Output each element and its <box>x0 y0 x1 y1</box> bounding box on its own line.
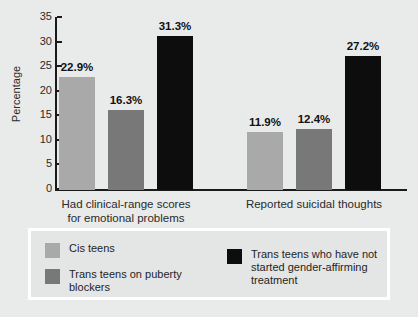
bar <box>157 36 193 190</box>
bar-value-label: 12.4% <box>286 113 342 125</box>
legend-item-cis-teens: Cis teens <box>45 242 115 258</box>
y-axis-tick-label: 15 <box>22 109 52 120</box>
chart-legend: Cis teens Trans teens on puberty blocker… <box>28 228 390 300</box>
y-axis-tick-label: 10 <box>22 134 52 145</box>
x-axis-category-label-line: Had clinical-range scores <box>16 197 236 211</box>
x-axis-category-label-line: for emotional problems <box>16 211 236 225</box>
legend-swatch-icon-no-treatment <box>227 249 242 264</box>
legend-swatch-icon-cis-teens <box>45 243 60 258</box>
bar-value-label: 16.3% <box>98 94 154 106</box>
bar-value-label: 31.3% <box>147 20 203 32</box>
legend-item-no-treatment: Trans teens who have not started gender-… <box>227 248 377 287</box>
y-axis-tick-label: 0 <box>22 183 52 194</box>
y-axis-title: Percentage <box>10 54 22 134</box>
x-axis-category-label: Reported suicidal thoughts <box>204 197 418 211</box>
legend-label-no-treatment: Trans teens who have not started gender-… <box>251 248 377 287</box>
legend-column-right: Trans teens who have not started gender-… <box>227 231 397 297</box>
y-axis-tick-label: 35 <box>22 11 52 22</box>
y-axis-tick-label: 30 <box>22 36 52 47</box>
legend-column-left: Cis teens Trans teens on puberty blocker… <box>41 231 231 297</box>
legend-swatch-icon-puberty-blockers <box>45 269 60 284</box>
legend-label-puberty-blockers: Trans teens on puberty blockers <box>69 268 182 294</box>
plot-area: 22.9%16.3%31.3%11.9%12.4%27.2% <box>55 18 407 190</box>
y-axis-tick-label: 5 <box>22 158 52 169</box>
bar <box>247 132 283 190</box>
bar <box>108 110 144 190</box>
bar <box>345 56 381 190</box>
x-axis-category-label-line: Reported suicidal thoughts <box>204 197 418 211</box>
bar-value-label: 27.2% <box>335 40 391 52</box>
legend-label-cis-teens: Cis teens <box>69 242 115 255</box>
bar-value-label: 11.9% <box>237 116 293 128</box>
x-axis-category-label: Had clinical-range scoresfor emotional p… <box>16 197 236 225</box>
bar-chart-figure: 05101520253035 Percentage 22.9%16.3%31.3… <box>0 0 418 317</box>
y-axis-tick-label: 20 <box>22 85 52 96</box>
y-axis-tick-label: 25 <box>22 60 52 71</box>
bar <box>59 77 95 190</box>
bar-value-label: 22.9% <box>49 61 105 73</box>
legend-item-puberty-blockers: Trans teens on puberty blockers <box>45 268 182 294</box>
bar <box>296 129 332 190</box>
